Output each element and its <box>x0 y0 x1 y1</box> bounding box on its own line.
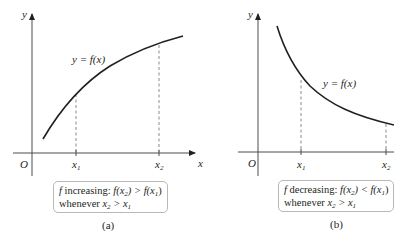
panel-a-increasing-curve <box>43 36 183 139</box>
panel-b-label: (b) <box>330 218 343 230</box>
panel-a-caption-box: f increasing: f(x2) > f(x1) whenever x2 … <box>53 181 168 213</box>
panel-a-caption-line1: f increasing: f(x2) > f(x1) <box>59 184 162 197</box>
panel-a-x2-label: x2 <box>155 158 163 170</box>
panel-a-x-axis-label: x <box>198 157 203 169</box>
panel-b-y-axis-label: y <box>248 8 253 20</box>
panel-a-origin-label: O <box>20 158 28 170</box>
panel-b-caption-line1: f decreasing: f(x2) < f(x1) <box>284 183 388 196</box>
panel-a-y-axis-label: y <box>22 8 27 20</box>
panel-a-label: (a) <box>102 219 114 231</box>
panel-a-curve-label: y = f(x) <box>72 53 105 65</box>
panel-b-curve-label: y = f(x) <box>323 77 356 89</box>
panel-b-graph <box>238 14 394 176</box>
panel-b-x2-label: x2 <box>382 158 390 170</box>
panel-b-decreasing-curve <box>277 26 394 125</box>
panel-a-x1-label: x1 <box>72 158 80 170</box>
panel-b-caption-box: f decreasing: f(x2) < f(x1) whenever x2 … <box>278 180 394 212</box>
panel-b-x1-label: x1 <box>297 158 305 170</box>
panel-a-graph <box>13 14 195 176</box>
panel-b-caption-line2: whenever x2 > x1 <box>284 196 388 209</box>
panel-a-caption-line2: whenever x2 > x1 <box>59 197 162 210</box>
panel-b-origin-label: O <box>248 157 256 169</box>
